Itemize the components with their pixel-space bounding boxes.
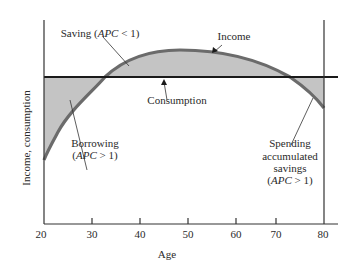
income-label: Income <box>218 30 251 42</box>
tick-label-70: 70 <box>271 228 283 240</box>
saving-label: Saving (APC < 1) <box>61 27 140 40</box>
borrowing-label: Borrowing <box>71 137 119 149</box>
tick-label-60: 60 <box>231 228 243 240</box>
x-axis-title: Age <box>158 248 176 260</box>
tick-label-20: 20 <box>36 228 48 240</box>
borrowing-apc-label: (APC > 1) <box>72 149 118 162</box>
life-cycle-chart: 20 30 40 50 60 70 80 Age Income, consump… <box>0 0 358 265</box>
tick-label-50: 50 <box>183 228 195 240</box>
tick-label-30: 30 <box>87 228 99 240</box>
x-ticks <box>92 218 276 224</box>
tick-label-80: 80 <box>318 228 330 240</box>
spending-label-line2: accumulated <box>262 150 318 162</box>
tick-label-40: 40 <box>135 228 147 240</box>
spending-label-line3: savings <box>274 162 307 174</box>
spending-label-line1: Spending <box>269 137 311 149</box>
consumption-label: Consumption <box>147 94 207 106</box>
spending-apc-label: (APC > 1) <box>267 174 313 187</box>
consumption-arrowhead <box>161 79 167 85</box>
y-axis-title: Income, consumption <box>20 90 32 186</box>
